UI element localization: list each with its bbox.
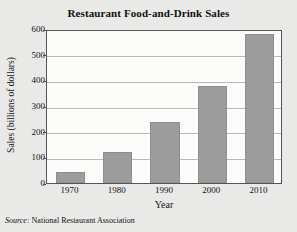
y-axis-tick-label: 100: [13, 153, 45, 162]
x-axis-label: Year: [46, 199, 282, 210]
y-axis-tick-mark: [43, 107, 46, 108]
y-axis-tick-mark: [43, 55, 46, 56]
y-axis-tick-mark: [43, 184, 46, 185]
bar: [245, 34, 274, 183]
chart-figure: Restaurant Food-and-Drink Sales Sales (b…: [0, 0, 297, 232]
y-axis-tick-label: 500: [13, 51, 45, 60]
y-axis-tick-label: 400: [13, 76, 45, 85]
y-axis-tick-label: 600: [13, 25, 45, 34]
y-axis-tick-label: 200: [13, 128, 45, 137]
x-axis-tick-label: 1990: [140, 186, 187, 195]
source-text: National Restaurant Association: [32, 216, 135, 225]
y-axis-tick-mark: [43, 132, 46, 133]
chart-title: Restaurant Food-and-Drink Sales: [0, 7, 297, 19]
bar: [103, 152, 132, 183]
x-axis-tick-label: 2010: [235, 186, 282, 195]
y-axis-tick-label: 0: [13, 179, 45, 188]
y-axis-tick-label: 300: [13, 102, 45, 111]
y-axis-tick-mark: [43, 30, 46, 31]
x-axis-tick-label: 1970: [46, 186, 93, 195]
source-lead: Source:: [5, 216, 30, 225]
y-axis-tick-mark: [43, 81, 46, 82]
source-note: Source: National Restaurant Association: [5, 216, 135, 225]
bar: [56, 172, 85, 183]
plot-area: [46, 30, 282, 184]
bar: [198, 86, 227, 183]
x-axis-tick-label: 1980: [93, 186, 140, 195]
bar: [150, 122, 179, 183]
y-axis-tick-mark: [43, 158, 46, 159]
x-axis-tick-label: 2000: [188, 186, 235, 195]
